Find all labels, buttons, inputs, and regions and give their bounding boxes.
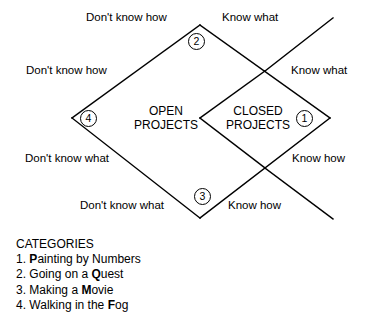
- category-2-number: 2.: [16, 267, 26, 281]
- badge-1: 1: [296, 110, 313, 127]
- label-dont-know-how-upper-left: Don't know how: [26, 64, 107, 77]
- badge-3: 3: [194, 188, 211, 205]
- category-2-bold: Q: [91, 267, 100, 281]
- category-3-bold: M: [81, 283, 91, 297]
- category-4-prefix: Walking in the: [29, 298, 107, 312]
- category-4-suffix: og: [115, 298, 128, 312]
- region-label-closed-projects: CLOSED PROJECTS: [222, 104, 294, 132]
- label-know-how-lower-right: Know how: [292, 152, 345, 165]
- category-item-3: 3. Making a Movie: [16, 283, 141, 298]
- category-2-suffix: uest: [101, 267, 124, 281]
- category-3-prefix: Making a: [29, 283, 81, 297]
- region-closed-line2: PROJECTS: [226, 118, 290, 132]
- category-item-4: 4. Walking in the Fog: [16, 298, 141, 313]
- category-1-suffix: ainting by Numbers: [37, 252, 140, 266]
- category-item-1: 1. Painting by Numbers: [16, 252, 141, 267]
- category-3-number: 3.: [16, 283, 26, 297]
- region-open-line1: OPEN: [149, 104, 183, 118]
- label-know-what-upper-right: Know what: [291, 64, 347, 77]
- region-label-open-projects: OPEN PROJECTS: [132, 104, 200, 132]
- badge-4: 4: [80, 110, 97, 127]
- category-3-suffix: ovie: [91, 283, 113, 297]
- category-4-number: 4.: [16, 298, 26, 312]
- label-know-how-bottom: Know how: [228, 199, 281, 212]
- category-item-2: 2. Going on a Quest: [16, 267, 141, 282]
- category-2-prefix: Going on a: [29, 267, 91, 281]
- label-dont-know-what-lower-left: Don't know what: [25, 152, 109, 165]
- categories-heading: CATEGORIES: [16, 237, 141, 252]
- categories-legend: CATEGORIES 1. Painting by Numbers 2. Goi…: [16, 237, 141, 313]
- diagram-page: OPEN PROJECTS CLOSED PROJECTS Don't know…: [0, 0, 372, 317]
- region-open-line2: PROJECTS: [134, 118, 198, 132]
- category-1-number: 1.: [16, 252, 26, 266]
- category-4-bold: F: [108, 298, 115, 312]
- label-dont-know-what-bottom: Don't know what: [80, 199, 164, 212]
- region-closed-line1: CLOSED: [233, 104, 282, 118]
- label-dont-know-how-top: Don't know how: [86, 11, 167, 24]
- label-know-what-top: Know what: [222, 11, 278, 24]
- badge-2: 2: [188, 33, 205, 50]
